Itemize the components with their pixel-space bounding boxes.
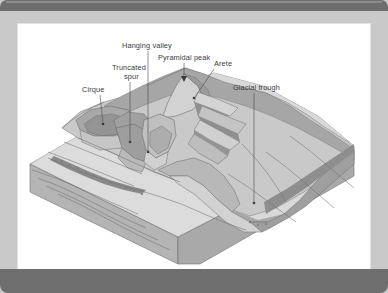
leader-dot-cirque — [102, 123, 105, 126]
leader-dot-truncated-spur — [129, 141, 132, 144]
leader-dot-arete — [193, 97, 196, 100]
figure-canvas: Cirque Truncated spur Hanging valley Pyr… — [18, 24, 370, 280]
label-pyramidal-peak: Pyramidal peak — [158, 53, 211, 62]
label-hanging-valley: Hanging valley — [122, 41, 172, 50]
image-viewer: Cirque Truncated spur Hanging valley Pyr… — [0, 0, 388, 293]
label-truncated-spur: Truncated — [112, 63, 146, 72]
label-arete: Arete — [214, 59, 232, 68]
glacial-landforms-diagram: Cirque Truncated spur Hanging valley Pyr… — [18, 24, 370, 280]
viewer-top-bar — [0, 0, 388, 11]
label-cirque: Cirque — [82, 85, 104, 94]
label-truncated-spur-line2: spur — [124, 72, 139, 81]
leader-dot-glacial-trough — [253, 202, 256, 205]
label-glacial-trough: Glacial trough — [233, 83, 280, 92]
viewer-matte: Cirque Truncated spur Hanging valley Pyr… — [0, 11, 388, 269]
viewer-bottom-bar — [0, 269, 388, 293]
top-bar-highlight — [6, 1, 382, 3]
leader-dot-hanging-valley — [147, 151, 150, 154]
